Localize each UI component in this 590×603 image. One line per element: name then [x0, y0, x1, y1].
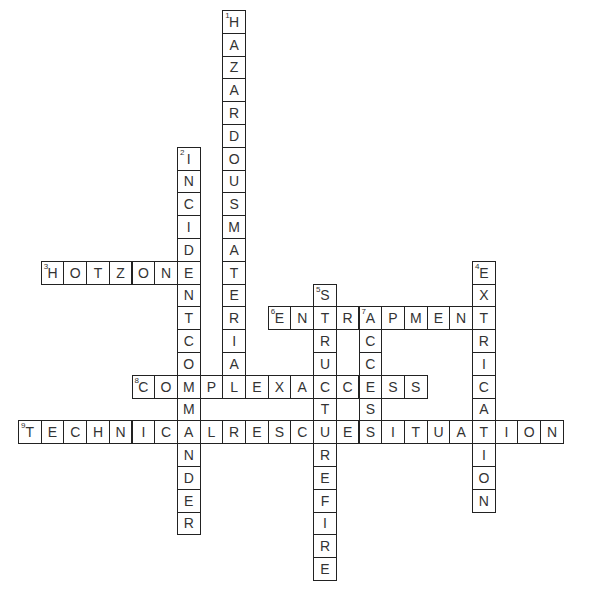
crossword-cell[interactable]: P	[200, 375, 224, 399]
crossword-cell[interactable]: S	[268, 420, 292, 444]
crossword-cell[interactable]: I	[313, 512, 337, 536]
crossword-cell[interactable]: E	[177, 489, 201, 513]
crossword-cell[interactable]: A	[222, 78, 246, 102]
crossword-cell[interactable]: F	[313, 489, 337, 513]
crossword-cell[interactable]: O	[132, 261, 156, 285]
crossword-cell[interactable]: C	[359, 352, 383, 376]
crossword-cell[interactable]: N	[290, 306, 314, 330]
crossword-cell[interactable]: E	[427, 306, 451, 330]
crossword-cell[interactable]: A	[290, 375, 314, 399]
crossword-cell[interactable]: E	[359, 375, 383, 399]
crossword-cell[interactable]: A	[222, 238, 246, 262]
crossword-cell[interactable]: P	[381, 306, 405, 330]
crossword-cell[interactable]: S	[404, 375, 428, 399]
crossword-cell[interactable]: T	[222, 261, 246, 285]
crossword-cell[interactable]: R	[222, 101, 246, 125]
crossword-cell[interactable]: O	[63, 261, 87, 285]
crossword-cell[interactable]: E6	[268, 306, 292, 330]
crossword-cell[interactable]: C	[290, 420, 314, 444]
crossword-cell[interactable]: I	[381, 420, 405, 444]
crossword-cell[interactable]: N	[177, 284, 201, 308]
crossword-cell[interactable]: N	[449, 306, 473, 330]
crossword-cell[interactable]: C	[313, 375, 337, 399]
crossword-cell[interactable]: R	[222, 420, 246, 444]
crossword-cell[interactable]: T	[472, 306, 496, 330]
crossword-cell[interactable]: E	[245, 375, 269, 399]
crossword-cell[interactable]: M	[404, 306, 428, 330]
crossword-cell[interactable]: C	[154, 420, 178, 444]
crossword-cell[interactable]: R	[336, 306, 360, 330]
crossword-cell[interactable]: N	[154, 261, 178, 285]
crossword-cell[interactable]: E	[313, 557, 337, 581]
crossword-cell[interactable]: U	[427, 420, 451, 444]
crossword-cell[interactable]: E	[313, 466, 337, 490]
crossword-cell[interactable]: D	[177, 238, 201, 262]
crossword-cell[interactable]: X	[268, 375, 292, 399]
crossword-cell[interactable]: M	[222, 215, 246, 239]
crossword-cell[interactable]: T	[313, 306, 337, 330]
crossword-cell[interactable]: O	[517, 420, 541, 444]
crossword-cell[interactable]: R	[222, 306, 246, 330]
crossword-cell[interactable]: N	[540, 420, 564, 444]
crossword-cell[interactable]: A7	[359, 306, 383, 330]
crossword-cell[interactable]: R	[472, 329, 496, 353]
crossword-cell[interactable]: I	[472, 352, 496, 376]
crossword-cell[interactable]: C	[63, 420, 87, 444]
crossword-cell[interactable]: I	[177, 215, 201, 239]
crossword-cell[interactable]: U	[222, 170, 246, 194]
crossword-cell[interactable]: S	[222, 192, 246, 216]
crossword-cell[interactable]: M	[177, 398, 201, 422]
crossword-cell[interactable]: S	[381, 375, 405, 399]
crossword-cell[interactable]: N	[177, 170, 201, 194]
crossword-cell[interactable]: S	[359, 420, 383, 444]
crossword-cell[interactable]: E	[41, 420, 65, 444]
crossword-cell[interactable]: T9	[18, 420, 42, 444]
crossword-cell[interactable]: O	[222, 147, 246, 171]
crossword-cell[interactable]: A	[222, 352, 246, 376]
crossword-cell[interactable]: H3	[41, 261, 65, 285]
crossword-cell[interactable]: M	[177, 375, 201, 399]
crossword-cell[interactable]: N	[177, 443, 201, 467]
crossword-cell[interactable]: A	[177, 420, 201, 444]
crossword-cell[interactable]: L	[200, 420, 224, 444]
crossword-cell[interactable]: R	[177, 512, 201, 536]
crossword-cell[interactable]: L	[222, 375, 246, 399]
crossword-cell[interactable]: H1	[222, 10, 246, 34]
crossword-cell[interactable]: O	[177, 352, 201, 376]
crossword-cell[interactable]: T	[86, 261, 110, 285]
crossword-cell[interactable]: O	[472, 466, 496, 490]
crossword-cell[interactable]: A	[472, 398, 496, 422]
crossword-cell[interactable]: X	[472, 284, 496, 308]
crossword-cell[interactable]: H	[86, 420, 110, 444]
crossword-cell[interactable]: I2	[177, 147, 201, 171]
crossword-cell[interactable]: Z	[109, 261, 133, 285]
crossword-cell[interactable]: C	[472, 375, 496, 399]
crossword-cell[interactable]: Z	[222, 56, 246, 80]
crossword-cell[interactable]: C	[359, 329, 383, 353]
crossword-cell[interactable]: O	[154, 375, 178, 399]
crossword-cell[interactable]: E	[222, 284, 246, 308]
crossword-cell[interactable]: S5	[313, 284, 337, 308]
crossword-cell[interactable]: C	[177, 192, 201, 216]
crossword-cell[interactable]: E	[177, 261, 201, 285]
crossword-cell[interactable]: R	[313, 329, 337, 353]
crossword-cell[interactable]: T	[404, 420, 428, 444]
crossword-cell[interactable]: I	[472, 443, 496, 467]
crossword-cell[interactable]: N	[472, 489, 496, 513]
crossword-cell[interactable]: U	[313, 420, 337, 444]
crossword-cell[interactable]: R	[313, 443, 337, 467]
crossword-cell[interactable]: A	[222, 33, 246, 57]
crossword-cell[interactable]: A	[449, 420, 473, 444]
crossword-cell[interactable]: T	[177, 306, 201, 330]
crossword-cell[interactable]: I	[495, 420, 519, 444]
crossword-cell[interactable]: U	[313, 352, 337, 376]
crossword-cell[interactable]: E4	[472, 261, 496, 285]
crossword-cell[interactable]: D	[222, 124, 246, 148]
crossword-cell[interactable]: C8	[132, 375, 156, 399]
crossword-cell[interactable]: D	[177, 466, 201, 490]
crossword-cell[interactable]: T	[472, 420, 496, 444]
crossword-cell[interactable]: E	[336, 420, 360, 444]
crossword-cell[interactable]: E	[245, 420, 269, 444]
crossword-cell[interactable]: S	[359, 398, 383, 422]
crossword-cell[interactable]: I	[222, 329, 246, 353]
